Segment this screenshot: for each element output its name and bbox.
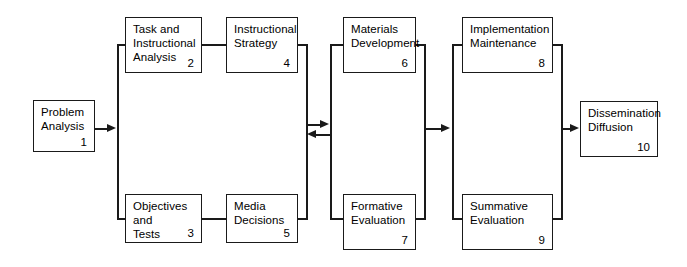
node-number: 6 [402, 57, 408, 70]
node-label: Implementation Maintenance [470, 22, 547, 50]
node-label: Instructional Strategy [234, 22, 292, 50]
node-number: 5 [284, 227, 290, 240]
rail-design-spine [117, 44, 119, 219]
connector-materials-to-design [316, 134, 332, 136]
node-label: Summative Evaluation [470, 199, 547, 227]
arrowhead-materials-to-design [307, 130, 316, 138]
node-task-instructional-analysis[interactable]: Task and Instructional Analysis 2 [125, 17, 202, 73]
node-number: 7 [402, 234, 408, 247]
node-materials-development[interactable]: Materials Development 6 [343, 17, 416, 73]
connector-task-to-strategy [200, 44, 228, 46]
rail-materials-bottom-stub [330, 218, 344, 220]
node-problem-analysis[interactable]: Problem Analysis 1 [33, 100, 95, 152]
node-label: Formative Evaluation [351, 199, 410, 227]
node-instructional-strategy[interactable]: Instructional Strategy 4 [226, 17, 298, 73]
node-label: Dissemination Diffusion [588, 106, 652, 134]
node-implementation-maintenance[interactable]: Implementation Maintenance 8 [462, 17, 553, 73]
node-label: Problem Analysis [41, 105, 89, 133]
node-number: 1 [81, 136, 87, 149]
node-number: 2 [188, 57, 194, 70]
process-flowchart: Problem Analysis 1 Task and Instructiona… [0, 0, 687, 267]
node-number: 8 [539, 57, 545, 70]
node-summative-evaluation[interactable]: Summative Evaluation 9 [462, 194, 553, 250]
node-number: 3 [188, 227, 194, 240]
rail-implementation-right-spine [561, 44, 563, 219]
arrowhead-implementation-to-dissemination [570, 124, 579, 132]
node-number: 4 [284, 57, 290, 70]
node-label: Objectives and Tests [133, 199, 196, 242]
connector-objectives-to-media [200, 218, 228, 220]
rail-materials-left-spine [330, 44, 332, 219]
rail-implementation-spine [452, 44, 454, 219]
node-label: Media Decisions [234, 199, 292, 227]
arrowhead-materials-to-implementation [441, 124, 450, 132]
rail-strategy-bottom-stub [297, 218, 308, 220]
node-media-decisions[interactable]: Media Decisions 5 [226, 194, 298, 243]
node-number: 9 [539, 234, 545, 247]
rail-materials-top-stub [330, 44, 344, 46]
rail-materials-right-spine [424, 44, 426, 219]
node-label: Task and Instructional Analysis [133, 22, 196, 65]
arrowhead-problem-to-design-rail [107, 124, 116, 132]
arrowhead-design-to-materials [320, 120, 329, 128]
node-formative-evaluation[interactable]: Formative Evaluation 7 [343, 194, 416, 250]
node-objectives-and-tests[interactable]: Objectives and Tests 3 [125, 194, 202, 243]
node-label: Materials Development [351, 22, 410, 50]
node-dissemination-diffusion[interactable]: Dissemination Diffusion 10 [580, 101, 658, 157]
node-number: 10 [637, 141, 650, 154]
